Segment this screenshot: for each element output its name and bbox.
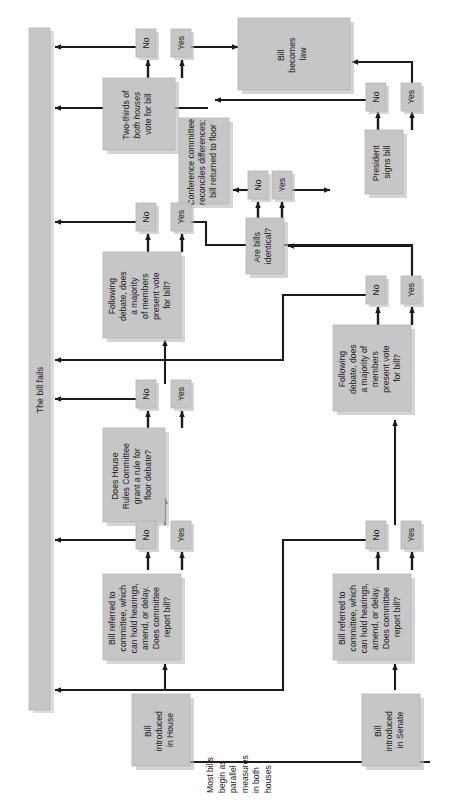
chip-house-committee-yes[interactable]: Yes xyxy=(171,521,194,552)
chip-senate-vote-no[interactable]: No xyxy=(366,276,389,307)
chip-label: No xyxy=(371,529,381,540)
node-conference-committee[interactable]: Conference committee reconciles differen… xyxy=(179,117,233,208)
chip-label: Yes xyxy=(406,528,416,542)
chip-label: Yes xyxy=(277,178,287,192)
chip-president-no[interactable]: No xyxy=(366,83,389,114)
fail-bar-label: The bill fails xyxy=(35,366,45,413)
node-bill-introduced-senate[interactable]: Bill introduced in Senate xyxy=(362,694,424,770)
chip-label: Yes xyxy=(406,283,416,297)
node-are-bills-identical[interactable]: Are bills identical? xyxy=(246,218,288,278)
node-floor-vote-house[interactable]: Following debate, does a majority of mem… xyxy=(103,252,185,342)
chip-label: No xyxy=(371,284,381,295)
node-bill-introduced-house[interactable]: Bill introduced in House xyxy=(132,694,194,770)
chip-label: Yes xyxy=(406,90,416,104)
chip-label: No xyxy=(141,211,151,222)
chip-label: No xyxy=(141,37,151,48)
node-label: Two-thirds of both houses vote for bill xyxy=(121,88,153,140)
node-label: Does House Rules Committee grant a rule … xyxy=(110,441,153,509)
chip-senate-committee-yes[interactable]: Yes xyxy=(401,521,424,552)
chip-label: No xyxy=(253,179,263,190)
node-floor-vote-senate[interactable]: Following debate, does a majority of mem… xyxy=(333,325,415,415)
fail-bar: The bill fails xyxy=(29,28,54,713)
flowchart-canvas: The bill fails xyxy=(0,0,461,812)
node-committee-referral-senate[interactable]: Bill referred to committee, which can ho… xyxy=(333,574,415,664)
node-label: Conference committee reconciles differen… xyxy=(186,117,218,206)
chip-label: No xyxy=(141,388,151,399)
chip-label: Yes xyxy=(176,36,186,50)
chip-rules-no[interactable]: No xyxy=(136,380,159,411)
note-label: Most bills begin as parallel measures in… xyxy=(205,753,273,793)
chip-label: No xyxy=(371,91,381,102)
chip-house-vote-no[interactable]: No xyxy=(136,203,159,234)
chip-label: No xyxy=(141,529,151,540)
chip-rules-yes[interactable]: Yes xyxy=(171,380,194,411)
chip-identical-no[interactable]: No xyxy=(248,171,271,202)
chip-override-no[interactable]: No xyxy=(136,29,159,60)
chip-label: Yes xyxy=(176,528,186,542)
chip-label: Yes xyxy=(176,387,186,401)
node-committee-referral-house[interactable]: Bill referred to committee, which can ho… xyxy=(103,574,185,664)
chip-president-yes[interactable]: Yes xyxy=(401,83,424,114)
chip-senate-committee-no[interactable]: No xyxy=(366,521,389,552)
node-bill-becomes-law[interactable]: Bill becomes law xyxy=(238,18,354,94)
node-label: Are bills identical? xyxy=(252,228,273,265)
note-most-bills-parallel: Most bills begin as parallel measures in… xyxy=(205,753,273,793)
chip-house-committee-no[interactable]: No xyxy=(136,521,159,552)
chip-house-vote-yes[interactable]: Yes xyxy=(171,203,194,234)
node-label: President signs bill xyxy=(371,143,392,182)
node-two-thirds-override[interactable]: Two-thirds of both houses vote for bill xyxy=(103,78,179,154)
chip-label: Yes xyxy=(176,210,186,224)
chip-override-yes[interactable]: Yes xyxy=(171,29,194,60)
chip-senate-vote-yes[interactable]: Yes xyxy=(401,276,424,307)
node-house-rules-committee[interactable]: Does House Rules Committee grant a rule … xyxy=(103,428,169,526)
flowchart-svg: The bill fails xyxy=(0,0,461,812)
node-president-signs-bill[interactable]: President signs bill xyxy=(365,130,407,198)
connector-senate-vote-yes-arrow xyxy=(288,246,412,295)
chip-identical-yes[interactable]: Yes xyxy=(272,171,295,202)
